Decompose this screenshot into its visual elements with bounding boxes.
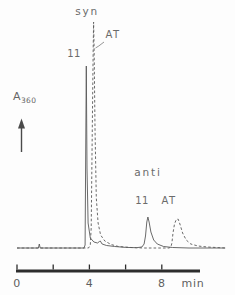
- trace-solid: [17, 66, 225, 248]
- y-axis-label-subscript: 360: [21, 96, 36, 105]
- y-axis-label-base: A: [13, 90, 21, 103]
- y-axis-arrow-icon: [18, 119, 25, 153]
- y-axis-label: A360: [13, 90, 36, 103]
- chromatogram-plot: [0, 0, 235, 295]
- pointer-line: [96, 42, 105, 48]
- chromatogram-figure: A360 048minsynAT11anti11AT: [0, 0, 235, 295]
- trace-dashed: [17, 22, 225, 248]
